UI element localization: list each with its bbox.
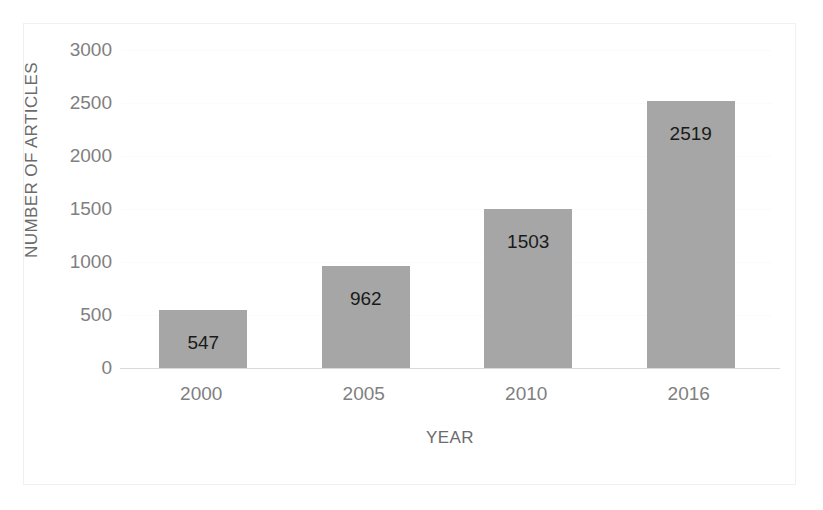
x-axis-ticks: 2000200520102016 bbox=[120, 383, 780, 413]
bar-value-label: 2519 bbox=[647, 123, 735, 145]
x-axis-tick-label: 2005 bbox=[283, 383, 446, 405]
y-axis-tick-label: 1000 bbox=[42, 251, 112, 273]
gridline bbox=[122, 50, 772, 51]
bar-value-label: 1503 bbox=[484, 231, 572, 253]
x-axis-tick-label: 2000 bbox=[120, 383, 283, 405]
y-axis-ticks: 300025002000150010005000 bbox=[42, 50, 112, 368]
y-axis-tick-label: 2500 bbox=[42, 92, 112, 114]
x-axis-title: YEAR bbox=[120, 428, 780, 448]
x-axis-tick-label: 2016 bbox=[608, 383, 771, 405]
plot-area: 54796215032519 bbox=[122, 50, 772, 368]
bar-value-label: 962 bbox=[322, 288, 410, 310]
y-axis-tick-label: 3000 bbox=[42, 39, 112, 61]
bar bbox=[322, 266, 410, 368]
x-axis-tick-label: 2010 bbox=[445, 383, 608, 405]
x-axis-line bbox=[120, 368, 780, 369]
bar-value-label: 547 bbox=[159, 332, 247, 354]
y-axis-tick-label: 2000 bbox=[42, 145, 112, 167]
y-axis-tick-label: 1500 bbox=[42, 198, 112, 220]
y-axis-tick-label: 500 bbox=[42, 304, 112, 326]
y-axis-tick-label: 0 bbox=[42, 357, 112, 379]
y-axis-title: NUMBER OF ARTICLES bbox=[22, 40, 42, 280]
